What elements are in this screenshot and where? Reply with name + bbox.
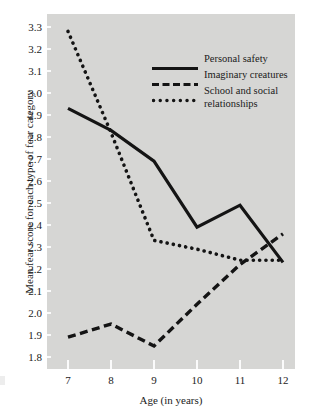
legend-item-school-social: School and social relationships	[152, 84, 292, 112]
x-tick-label: 11	[228, 374, 252, 386]
y-axis-label: Mean fear score for each type of fear ca…	[23, 67, 35, 317]
x-tick-label: 12	[271, 374, 295, 386]
legend-label-personal-safety: Personal safety	[204, 52, 268, 66]
legend-item-personal-safety: Personal safety	[152, 52, 292, 67]
y-tick-label: 1.9	[16, 330, 42, 341]
legend: Personal safety Imaginary creatures Scho…	[152, 52, 292, 113]
legend-swatch-dashed	[152, 73, 198, 78]
x-tick-label: 7	[56, 374, 80, 386]
figure: 1.81.92.02.12.22.32.42.52.62.72.82.93.03…	[0, 0, 310, 417]
legend-label-imaginary-creatures: Imaginary creatures	[204, 68, 288, 82]
legend-item-imaginary-creatures: Imaginary creatures	[152, 68, 292, 83]
y-tick-label: 1.8	[16, 352, 42, 363]
page-edge-mark	[0, 376, 5, 385]
y-tick-label: 3.2	[16, 44, 42, 55]
y-tick-label: 3.3	[16, 22, 42, 33]
x-axis-label: Age (in years)	[47, 394, 295, 406]
x-tick-label: 9	[142, 374, 166, 386]
legend-label-school-social-line2: relationships	[204, 97, 258, 111]
x-tick-label: 10	[185, 374, 209, 386]
x-tick-label: 8	[99, 374, 123, 386]
legend-swatch-dotted	[152, 89, 198, 94]
legend-label-school-social: School and social	[204, 84, 278, 98]
legend-swatch-solid	[152, 57, 198, 62]
